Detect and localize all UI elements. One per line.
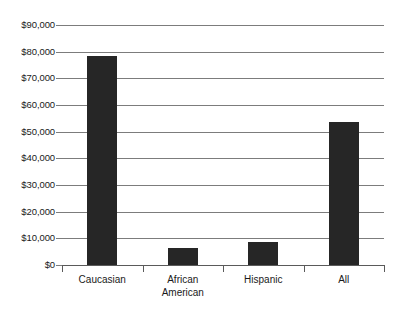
x-axis-label-line: Hispanic bbox=[223, 274, 304, 287]
bar bbox=[87, 56, 117, 265]
bar-chart: $0$10,000$20,000$30,000$40,000$50,000$60… bbox=[0, 0, 405, 312]
x-axis-category-label: AfricanAmerican bbox=[143, 274, 224, 299]
bar bbox=[168, 248, 198, 265]
y-axis-tick-label: $0 bbox=[45, 259, 55, 270]
x-axis-label-line: African bbox=[143, 274, 224, 287]
y-axis-tick-mark bbox=[56, 105, 62, 106]
x-axis-tick-mark bbox=[384, 265, 385, 272]
y-axis-tick-mark bbox=[56, 238, 62, 239]
plot-area bbox=[62, 25, 384, 265]
y-axis-tick-label: $30,000 bbox=[21, 179, 55, 190]
y-axis-tick-mark bbox=[56, 158, 62, 159]
bar bbox=[248, 242, 278, 265]
x-axis-category-label: Hispanic bbox=[223, 274, 304, 287]
y-axis-tick-label: $60,000 bbox=[21, 99, 55, 110]
x-axis-label-line: American bbox=[143, 287, 224, 300]
x-axis-tick-mark bbox=[143, 265, 144, 272]
x-axis-category-label: All bbox=[304, 274, 385, 287]
y-axis-tick-label: $90,000 bbox=[21, 19, 55, 30]
y-axis-tick-mark bbox=[56, 78, 62, 79]
y-axis-tick-label: $10,000 bbox=[21, 232, 55, 243]
bar-series bbox=[62, 25, 384, 265]
y-axis-tick-label: $50,000 bbox=[21, 126, 55, 137]
y-axis-tick-label: $20,000 bbox=[21, 206, 55, 217]
y-axis-tick-mark bbox=[56, 132, 62, 133]
x-axis-label-line: Caucasian bbox=[62, 274, 143, 287]
x-axis-tick-mark bbox=[223, 265, 224, 272]
y-axis-tick-label: $70,000 bbox=[21, 72, 55, 83]
y-axis: $0$10,000$20,000$30,000$40,000$50,000$60… bbox=[0, 25, 55, 265]
x-axis: CaucasianAfricanAmericanHispanicAll bbox=[62, 274, 384, 312]
x-axis-category-label: Caucasian bbox=[62, 274, 143, 287]
y-axis-tick-mark bbox=[56, 25, 62, 26]
bar bbox=[329, 122, 359, 265]
y-axis-tick-mark bbox=[56, 52, 62, 53]
x-axis-tick-mark bbox=[62, 265, 63, 272]
y-axis-tick-label: $80,000 bbox=[21, 46, 55, 57]
y-axis-tick-mark bbox=[56, 212, 62, 213]
x-axis-tick-mark bbox=[304, 265, 305, 272]
y-axis-tick-label: $40,000 bbox=[21, 152, 55, 163]
x-axis-label-line: All bbox=[304, 274, 385, 287]
y-axis-tick-mark bbox=[56, 185, 62, 186]
